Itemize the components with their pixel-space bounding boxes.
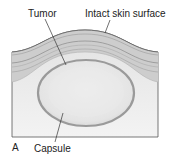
tumor-capsule-diagram: Tumor Intact skin surface Capsule A xyxy=(0,0,176,165)
skin-leader-line xyxy=(105,20,110,33)
tumor-label: Tumor xyxy=(28,8,57,19)
tumor-texture xyxy=(48,67,124,117)
panel-label: A xyxy=(12,142,19,153)
capsule-label: Capsule xyxy=(34,143,71,154)
skin-surface-label: Intact skin surface xyxy=(85,8,166,19)
